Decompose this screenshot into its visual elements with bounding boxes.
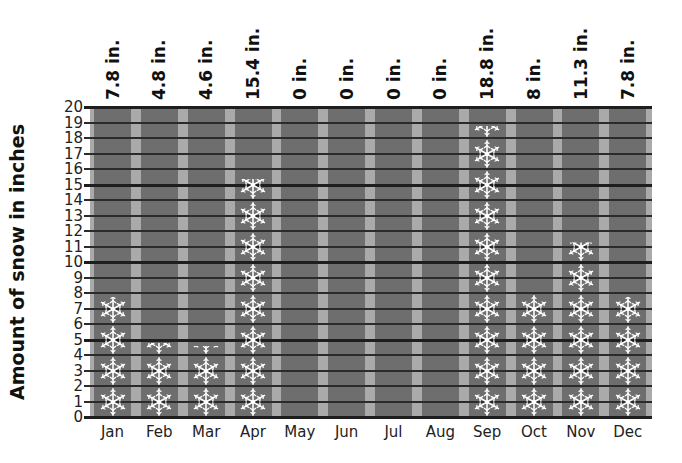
snowflake-icon xyxy=(238,201,268,235)
snowflake-icon xyxy=(191,356,221,390)
y-tick-label: 8 xyxy=(59,284,83,302)
value-label: 0 in. xyxy=(337,58,357,100)
snowflake-icon xyxy=(566,232,596,266)
snowflake-icon xyxy=(472,232,502,266)
snowflake-icon xyxy=(238,356,268,390)
y-tick-label: 11 xyxy=(59,238,83,256)
x-tick-label: Jan xyxy=(88,423,138,441)
snowflake-icon xyxy=(472,170,502,204)
snowflake-icon xyxy=(613,294,643,328)
snowflake-icon xyxy=(566,387,596,421)
snowflake-icon xyxy=(472,294,502,328)
x-tick-label: Feb xyxy=(134,423,184,441)
value-label: 8 in. xyxy=(524,58,544,100)
snowflake-icon xyxy=(472,201,502,235)
snowflake-icon xyxy=(566,263,596,297)
y-tick-label: 7 xyxy=(59,300,83,318)
y-tick-label: 17 xyxy=(59,145,83,163)
value-label: 0 in. xyxy=(430,58,450,100)
y-tick-label: 1 xyxy=(59,393,83,411)
snowflake-icon xyxy=(519,325,549,359)
plot-area xyxy=(90,107,652,417)
snowflake-icon xyxy=(238,325,268,359)
y-tick-label: 12 xyxy=(59,222,83,240)
value-label: 7.8 in. xyxy=(618,40,638,100)
gridline xyxy=(84,153,652,155)
x-tick-label: May xyxy=(275,423,325,441)
y-tick-label: 15 xyxy=(59,176,83,194)
y-tick-label: 20 xyxy=(59,98,83,116)
snowflake-icon xyxy=(144,356,174,390)
snowflake-icon xyxy=(566,294,596,328)
value-label: 7.8 in. xyxy=(103,40,123,100)
value-label: 15.4 in. xyxy=(243,28,263,100)
value-label: 4.8 in. xyxy=(149,40,169,100)
snowflake-icon xyxy=(472,356,502,390)
x-tick-label: Jun xyxy=(322,423,372,441)
snowflake-icon xyxy=(191,325,221,359)
y-tick-label: 16 xyxy=(59,160,83,178)
gridline xyxy=(84,184,652,187)
value-label: 18.8 in. xyxy=(477,28,497,100)
snowflake-icon xyxy=(613,356,643,390)
gridline xyxy=(84,199,652,201)
x-tick-label: Sep xyxy=(462,423,512,441)
snowflake-icon xyxy=(472,263,502,297)
gridline xyxy=(84,168,652,170)
x-tick-label: Jul xyxy=(369,423,419,441)
snowflake-icon xyxy=(191,387,221,421)
y-tick-label: 3 xyxy=(59,362,83,380)
x-tick-label: Nov xyxy=(556,423,606,441)
snowflake-icon xyxy=(238,387,268,421)
snowflake-icon xyxy=(98,356,128,390)
y-tick-label: 2 xyxy=(59,377,83,395)
value-label: 0 in. xyxy=(384,58,404,100)
snowflake-icon xyxy=(238,263,268,297)
y-tick-label: 13 xyxy=(59,207,83,225)
gridline xyxy=(84,215,652,217)
y-tick-label: 4 xyxy=(59,346,83,364)
snowflake-icon xyxy=(566,356,596,390)
y-tick-label: 14 xyxy=(59,191,83,209)
y-tick-label: 0 xyxy=(59,408,83,426)
gridline xyxy=(84,106,652,109)
snowflake-icon xyxy=(144,325,174,359)
value-label: 4.6 in. xyxy=(196,40,216,100)
snowflake-icon xyxy=(566,325,596,359)
snowflake-icon xyxy=(519,356,549,390)
snowflake-icon xyxy=(472,108,502,142)
snowflake-icon xyxy=(238,170,268,204)
snowflake-icon xyxy=(238,294,268,328)
x-tick-label: Aug xyxy=(415,423,465,441)
snowflake-icon xyxy=(98,387,128,421)
snowflake-icon xyxy=(144,387,174,421)
snowflake-icon xyxy=(98,294,128,328)
snowflake-icon xyxy=(472,325,502,359)
x-tick-label: Oct xyxy=(509,423,559,441)
snowflake-icon xyxy=(98,325,128,359)
y-axis-title: Amount of snow in inches xyxy=(6,124,28,400)
y-tick-label: 9 xyxy=(59,269,83,287)
x-tick-label: Dec xyxy=(603,423,653,441)
y-tick-label: 10 xyxy=(59,253,83,271)
snowflake-icon xyxy=(613,325,643,359)
gridline xyxy=(84,137,652,139)
gridline xyxy=(84,122,652,124)
y-tick-label: 18 xyxy=(59,129,83,147)
snowflake-icon xyxy=(472,387,502,421)
value-label: 0 in. xyxy=(290,58,310,100)
x-tick-label: Apr xyxy=(228,423,278,441)
snowflake-icon xyxy=(238,232,268,266)
x-tick-label: Mar xyxy=(181,423,231,441)
value-label: 11.3 in. xyxy=(571,28,591,100)
snowflake-icon xyxy=(519,387,549,421)
y-tick-label: 6 xyxy=(59,315,83,333)
snowflake-icon xyxy=(519,294,549,328)
snowflake-icon xyxy=(613,387,643,421)
snowflake-icon xyxy=(472,139,502,173)
y-tick-label: 19 xyxy=(59,114,83,132)
y-tick-label: 5 xyxy=(59,331,83,349)
